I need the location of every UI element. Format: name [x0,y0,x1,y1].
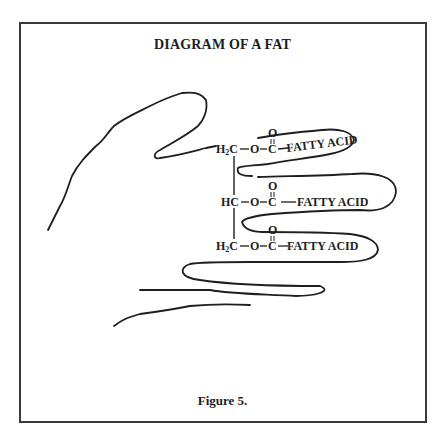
svg-text:O: O [250,142,259,156]
svg-text:O: O [250,195,259,209]
hand-back-outline [48,93,216,230]
svg-text:C: C [268,195,277,209]
backbone-h2c-1: H2C [216,142,238,157]
fatty-acid-label-3: FATTY ACID [287,239,359,253]
fatty-acid-label-1: FATTY ACID [286,132,359,155]
svg-text:C: C [268,239,277,253]
svg-text:O: O [268,126,277,140]
svg-text:O: O [268,179,277,193]
hand-illustration: H2C O C O FATTY ACID HC O C O FATTY ACID… [0,0,445,441]
backbone-hc: HC [221,195,239,209]
fatty-acid-label-2: FATTY ACID [297,195,369,209]
svg-text:O: O [268,223,277,237]
triglyceride-structure: H2C O C O FATTY ACID HC O C O FATTY ACID… [216,126,369,254]
backbone-h2c-3: H2C [216,239,238,254]
palm-outline [140,262,324,296]
palm-lower-outline [114,304,250,326]
figure-caption: Figure 5. [0,393,445,409]
svg-text:O: O [250,239,259,253]
svg-text:C: C [268,142,277,156]
